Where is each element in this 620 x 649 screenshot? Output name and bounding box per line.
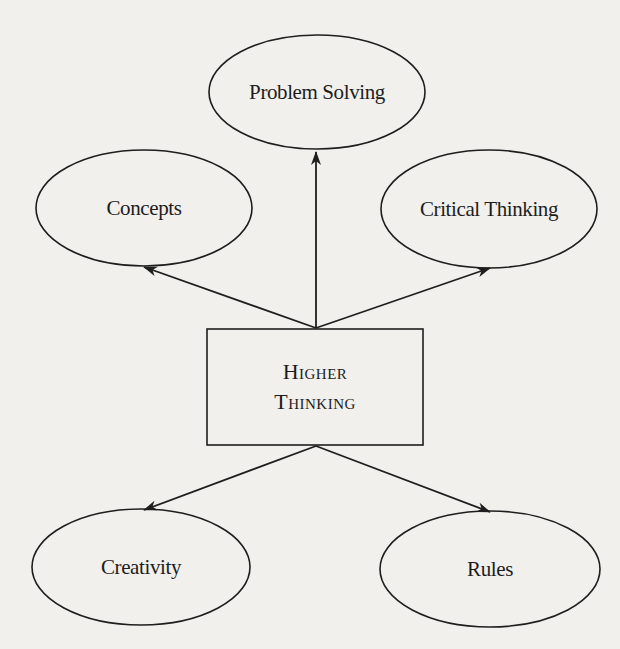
node-critical-thinking: Critical Thinking — [381, 150, 597, 268]
node-label: Concepts — [107, 196, 182, 220]
node-label: Rules — [467, 557, 513, 581]
concept-map: Problem Solving Concepts Critical Thinki… — [0, 0, 620, 649]
diagram-canvas: Problem Solving Concepts Critical Thinki… — [0, 0, 620, 649]
arrow-to-rules — [316, 446, 490, 512]
node-higher-thinking: Higher Thinking — [207, 329, 423, 445]
node-label: Problem Solving — [249, 80, 386, 104]
arrow-to-concepts — [144, 267, 316, 328]
node-creativity: Creativity — [32, 509, 250, 625]
node-label: Creativity — [101, 555, 182, 579]
arrow-to-creativity — [144, 446, 316, 510]
node-concepts: Concepts — [36, 150, 252, 266]
center-label-line1: Higher — [283, 359, 348, 384]
node-rules: Rules — [380, 511, 600, 627]
arrow-to-critical-thinking — [316, 268, 490, 328]
center-label-line2: Thinking — [274, 389, 356, 414]
center-box — [207, 329, 423, 445]
node-label: Critical Thinking — [420, 197, 559, 221]
node-problem-solving: Problem Solving — [209, 35, 425, 149]
